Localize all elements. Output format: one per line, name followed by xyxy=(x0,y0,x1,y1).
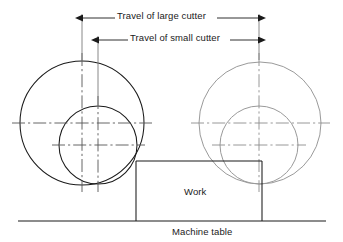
machine-table-label: Machine table xyxy=(172,227,232,237)
work-label: Work xyxy=(184,187,206,197)
diagram-canvas: Travel of large cutter Travel of small c… xyxy=(0,0,343,242)
travel-of-small-cutter-label: Travel of small cutter xyxy=(130,33,220,43)
travel-of-large-cutter-label: Travel of large cutter xyxy=(117,11,206,21)
right-cutter-group xyxy=(191,53,330,192)
left-cutter-group xyxy=(12,53,152,192)
